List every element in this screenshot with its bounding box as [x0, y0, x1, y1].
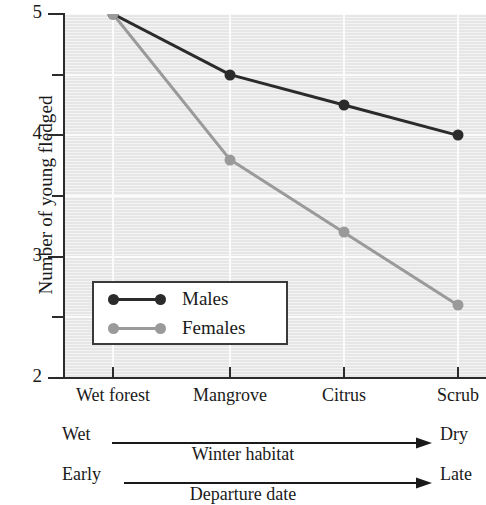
x-axis-tick: [343, 367, 345, 379]
y-axis-tick: [48, 377, 64, 379]
y-axis-tick: [48, 13, 64, 15]
series-line-females: [113, 14, 458, 305]
series-line-males: [113, 14, 458, 135]
annotation-habitat-right-label: Dry: [440, 424, 468, 445]
data-point-males: [453, 130, 464, 141]
legend-label-males: Males: [182, 288, 228, 310]
chart-figure: Number of young fledged 2345 Wet forestM…: [0, 0, 486, 505]
x-axis-tick: [229, 367, 231, 379]
y-axis-tick-label: 2: [16, 365, 42, 387]
x-axis-tick-label: Scrub: [437, 385, 479, 406]
legend-dot-right-females: [155, 323, 166, 334]
legend-label-females: Females: [182, 317, 245, 339]
legend-swatch-males: [108, 292, 172, 306]
y-axis-tick: [52, 74, 64, 76]
data-point-females: [453, 300, 464, 311]
annotation-departure-left-label: Early: [62, 464, 101, 485]
annotation-habitat-title: Winter habitat: [0, 444, 486, 465]
data-point-females: [225, 154, 236, 165]
x-axis-tick: [112, 367, 114, 379]
annotation-departure-right-label: Late: [440, 464, 472, 485]
y-axis-tick: [48, 134, 64, 136]
x-axis-tick: [457, 367, 459, 379]
annotation-departure-title: Departure date: [0, 484, 486, 505]
legend-item-males: Males: [94, 283, 290, 315]
y-axis-tick: [52, 195, 64, 197]
x-axis-tick-label: Wet forest: [76, 385, 150, 406]
data-point-males: [225, 69, 236, 80]
x-axis-line: [63, 377, 486, 379]
y-axis-tick-label: 5: [16, 1, 42, 23]
x-axis-tick-label: Citrus: [322, 385, 366, 406]
y-axis-tick-label: 3: [16, 244, 42, 266]
legend-swatch-females: [108, 321, 172, 335]
annotation-departure-date: Early Late Departure date: [0, 464, 486, 505]
y-axis-tick-label: 4: [16, 122, 42, 144]
annotation-habitat-left-label: Wet: [62, 424, 91, 445]
y-axis-tick: [52, 316, 64, 318]
x-axis-tick-label: Mangrove: [193, 385, 267, 406]
y-axis-tick: [48, 256, 64, 258]
legend: Males Females: [92, 281, 288, 345]
data-point-females: [339, 227, 350, 238]
legend-dot-left-females: [108, 323, 119, 334]
legend-item-females: Females: [94, 312, 290, 344]
legend-dot-left-males: [108, 294, 119, 305]
legend-dot-right-males: [155, 294, 166, 305]
data-point-males: [339, 100, 350, 111]
